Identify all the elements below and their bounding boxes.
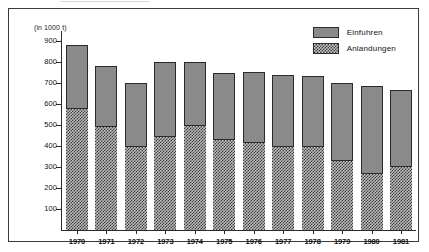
chart-page: (in 1000 t) Einfuhren Anlandungen 900800… — [0, 0, 429, 252]
x-axis-label-1979: 1979 — [331, 237, 353, 246]
scan-artifact — [60, 1, 150, 2]
bar-segment-anlandungen — [243, 142, 265, 230]
x-tick-mark — [77, 230, 78, 234]
x-axis-label-1975: 1975 — [213, 237, 235, 246]
bar-column — [243, 31, 265, 230]
bar-segment-anlandungen — [361, 173, 383, 230]
bar-1975 — [213, 73, 235, 230]
x-tick-mark — [342, 230, 343, 234]
x-tick-1979 — [331, 230, 353, 234]
x-axis-label-1973: 1973 — [154, 237, 176, 246]
bar-segment-anlandungen — [213, 139, 235, 230]
bar-column — [154, 31, 176, 230]
bar-column — [125, 31, 147, 230]
x-axis-label-1974: 1974 — [184, 237, 206, 246]
x-tick-mark — [254, 230, 255, 234]
bar-column — [390, 31, 412, 230]
bar-segment-anlandungen — [331, 160, 353, 230]
bar-1974 — [184, 62, 206, 230]
x-tick-1981 — [390, 230, 412, 234]
x-tick-mark — [401, 230, 402, 234]
x-axis-label-1976: 1976 — [243, 237, 265, 246]
bar-1973 — [154, 62, 176, 230]
bar-column — [361, 31, 383, 230]
y-tick-label: 200 — [44, 183, 57, 192]
bar-column — [272, 31, 294, 230]
x-tick-mark — [165, 230, 166, 234]
x-tick-mark — [224, 230, 225, 234]
bar-1978 — [302, 76, 324, 230]
x-tick-1972 — [125, 230, 147, 234]
bar-column — [213, 31, 235, 230]
figure-frame: (in 1000 t) Einfuhren Anlandungen 900800… — [8, 8, 419, 242]
x-tick-1975 — [213, 230, 235, 234]
bar-1980 — [361, 86, 383, 230]
x-tick-mark — [372, 230, 373, 234]
x-tick-mark — [195, 230, 196, 234]
x-tick-1977 — [272, 230, 294, 234]
bar-column — [95, 31, 117, 230]
bar-1970 — [66, 45, 88, 230]
y-tick-label: 800 — [44, 57, 57, 66]
x-axis-label-1980: 1980 — [361, 237, 383, 246]
x-axis-label-1970: 1970 — [66, 237, 88, 246]
bar-column — [302, 31, 324, 230]
y-tick-label: 400 — [44, 141, 57, 150]
y-tick-label: 900 — [44, 36, 57, 45]
bar-segment-anlandungen — [95, 126, 117, 230]
bar-1979 — [331, 83, 353, 230]
x-tick-1980 — [361, 230, 383, 234]
bar-1972 — [125, 83, 147, 230]
y-tick-label: 100 — [44, 204, 57, 213]
bar-segment-anlandungen — [66, 108, 88, 230]
bar-series-group — [62, 31, 416, 230]
bar-segment-anlandungen — [272, 146, 294, 230]
bar-segment-anlandungen — [125, 146, 147, 230]
x-axis-label-1978: 1978 — [302, 237, 324, 246]
bar-segment-anlandungen — [302, 146, 324, 230]
y-tick-label: 600 — [44, 99, 57, 108]
x-tick-mark — [106, 230, 107, 234]
bar-column — [66, 31, 88, 230]
x-axis-label-1981: 1981 — [390, 237, 412, 246]
bar-1976 — [243, 72, 265, 230]
bar-1981 — [390, 90, 412, 230]
x-tick-1974 — [184, 230, 206, 234]
x-axis-ticks — [62, 230, 416, 234]
x-tick-1970 — [66, 230, 88, 234]
x-axis-labels: 1970197119721973197419751976197719781979… — [62, 237, 416, 246]
y-axis-unit-label: (in 1000 t) — [34, 24, 67, 31]
x-tick-1976 — [243, 230, 265, 234]
x-axis-label-1972: 1972 — [125, 237, 147, 246]
x-tick-mark — [313, 230, 314, 234]
x-tick-1971 — [95, 230, 117, 234]
x-tick-mark — [136, 230, 137, 234]
bar-1977 — [272, 75, 294, 230]
x-axis-label-1971: 1971 — [95, 237, 117, 246]
bar-segment-anlandungen — [390, 166, 412, 230]
plot-area: 900800700600500400300200100 — [61, 31, 416, 231]
bar-segment-anlandungen — [184, 125, 206, 230]
x-tick-mark — [283, 230, 284, 234]
bar-column — [184, 31, 206, 230]
y-tick-label: 300 — [44, 162, 57, 171]
bar-column — [331, 31, 353, 230]
x-axis-label-1977: 1977 — [272, 237, 294, 246]
x-tick-1973 — [154, 230, 176, 234]
y-tick-label: 700 — [44, 78, 57, 87]
bar-segment-anlandungen — [154, 136, 176, 230]
x-tick-1978 — [302, 230, 324, 234]
bar-1971 — [95, 66, 117, 230]
y-tick-label: 500 — [44, 120, 57, 129]
